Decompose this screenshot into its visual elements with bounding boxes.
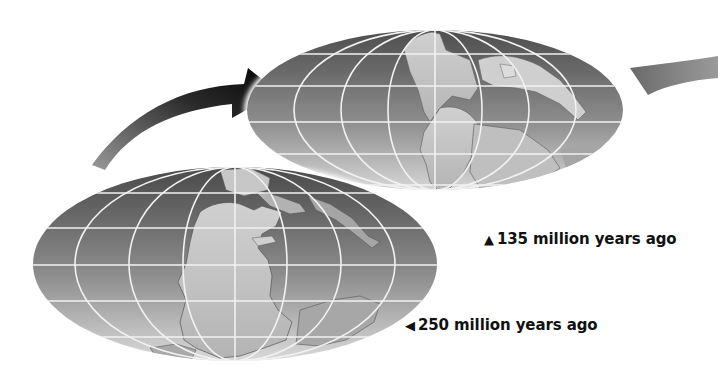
triangle-left-icon: ◀ [405, 318, 415, 333]
triangle-up-icon: ▲ [484, 232, 494, 247]
caption-250-text: 250 million years ago [418, 316, 598, 334]
figure-stage: ▲135 million years ago ◀250 million year… [0, 0, 718, 378]
caption-135-text: 135 million years ago [497, 230, 677, 248]
globe-250 [20, 163, 450, 365]
globes-diagram [0, 0, 718, 378]
arrow-to-next-icon [630, 56, 718, 95]
caption-250-million-years: ◀250 million years ago [405, 316, 598, 334]
caption-135-million-years: ▲135 million years ago [484, 230, 677, 248]
